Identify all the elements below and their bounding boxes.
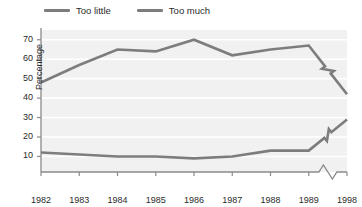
y-tick-label: 30: [13, 113, 33, 122]
x-tick-label: 1983: [62, 196, 96, 205]
chart-legend: Too little Too much: [44, 6, 210, 16]
legend-item-too-much: Too much: [137, 6, 210, 16]
y-tick-label: 50: [13, 74, 33, 83]
x-tick-label: 1986: [177, 196, 211, 205]
x-tick-label: 1982: [24, 196, 58, 205]
y-axis-title: Percentage: [34, 29, 44, 105]
legend-label-too-much: Too much: [169, 6, 210, 16]
legend-item-too-little: Too little: [44, 6, 111, 16]
legend-swatch-too-little: [44, 9, 70, 12]
y-tick-label: 40: [13, 93, 33, 102]
legend-swatch-too-much: [137, 9, 163, 12]
y-tick-label: 10: [13, 151, 33, 160]
x-tick-label: 1989: [292, 196, 326, 205]
y-tick-label: 20: [13, 132, 33, 141]
y-tick-label: 70: [13, 35, 33, 44]
x-tick-label: 1987: [215, 196, 249, 205]
y-tick-label: 60: [13, 54, 33, 63]
x-tick-label: 1998: [330, 196, 362, 205]
legend-label-too-little: Too little: [76, 6, 111, 16]
x-tick-label: 1988: [254, 196, 288, 205]
x-tick-label: 1984: [101, 196, 135, 205]
x-tick-label: 1985: [139, 196, 173, 205]
